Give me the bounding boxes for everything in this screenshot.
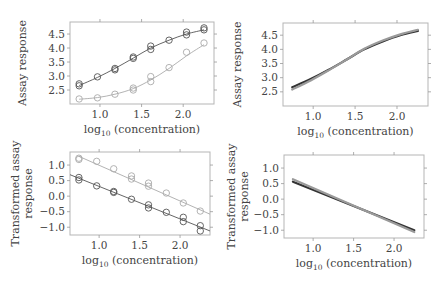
y-tick-label: 0.0	[262, 193, 279, 205]
data-point-marker	[94, 158, 100, 164]
x-tick-label: 1.0	[91, 239, 108, 251]
y-axis-label: Transformed assay	[9, 140, 22, 247]
panel-transformed-response-data: 1.01.52.0−1.0−0.50.00.51.0log10 (concent…	[9, 140, 213, 269]
x-tick-label: 1.5	[133, 108, 150, 120]
y-tick-label: 4.5	[261, 29, 278, 41]
x-axis-label: log10 (concentration)	[297, 125, 413, 140]
data-point-marker	[180, 218, 186, 224]
y-tick-label: 3.5	[261, 57, 278, 69]
plot-frame	[70, 22, 214, 104]
y-tick-label: −1.0	[254, 224, 280, 236]
x-tick-label: 1.5	[345, 242, 362, 254]
y-tick-label: 2.5	[48, 84, 65, 96]
x-axis-label: log10 (concentration)	[82, 254, 198, 269]
x-tick-label: 1.5	[131, 239, 148, 251]
x-tick-label: 2.0	[389, 110, 406, 122]
y-tick-label: 1.0	[262, 162, 279, 174]
y-tick-label: 2.5	[261, 85, 278, 97]
y-tick-label: 4.0	[261, 43, 278, 55]
x-tick-label: 2.0	[386, 242, 403, 254]
y-axis-label: response	[22, 168, 35, 218]
x-tick-label: 2.0	[175, 108, 192, 120]
y-axis-label: response	[238, 171, 251, 221]
y-tick-label: 0.0	[48, 190, 65, 202]
data-point-marker	[94, 74, 100, 80]
y-tick-label: 4.5	[48, 28, 65, 40]
y-tick-label: 3.0	[48, 70, 65, 82]
x-axis-label: log10 (concentration)	[84, 123, 200, 138]
y-axis-label: Transformed assay	[225, 143, 238, 250]
y-tick-label: −0.5	[254, 208, 280, 220]
y-tick-label: 1.0	[48, 159, 65, 171]
panel-transformed-response-fits: 1.01.52.0−1.0−0.50.00.51.0log10 (concent…	[225, 143, 427, 272]
y-axis-label: Assay response	[16, 20, 29, 107]
plot-frame	[283, 23, 428, 106]
x-tick-label: 1.5	[347, 110, 364, 122]
series-line	[293, 179, 414, 232]
x-tick-label: 1.0	[305, 110, 322, 122]
figure-grid: 1.01.52.02.53.03.54.04.5log10 (concentra…	[0, 0, 448, 283]
panel-assay-response-fits: 1.01.52.02.53.03.54.04.5log10 (concentra…	[231, 20, 431, 140]
y-tick-label: 0.5	[48, 174, 65, 186]
y-tick-label: 4.0	[48, 42, 65, 54]
series-line	[292, 30, 418, 90]
y-tick-label: −0.5	[40, 205, 66, 217]
y-tick-label: −1.0	[40, 221, 66, 233]
panel-assay-response-data: 1.01.52.02.53.03.54.04.5log10 (concentra…	[16, 19, 217, 138]
x-tick-label: 1.0	[305, 242, 322, 254]
y-tick-label: 3.5	[48, 56, 65, 68]
x-axis-label: log10 (concentration)	[296, 257, 412, 272]
y-axis-label: Assay response	[231, 22, 244, 109]
x-tick-label: 2.0	[172, 239, 189, 251]
fit-curve	[79, 156, 210, 214]
data-point-marker	[183, 49, 189, 55]
y-tick-label: 0.5	[262, 177, 279, 189]
y-tick-label: 3.0	[261, 71, 278, 83]
x-tick-label: 1.0	[92, 108, 109, 120]
series-line	[292, 31, 418, 87]
data-point-marker	[201, 40, 207, 46]
data-point-marker	[110, 166, 116, 172]
data-point-marker	[166, 64, 172, 70]
